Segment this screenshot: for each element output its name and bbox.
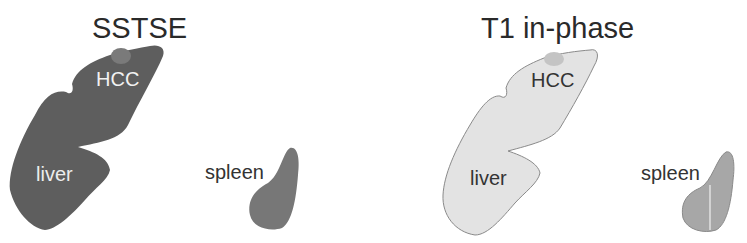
panel-t1-in-phase: T1 in-phase HCC liver spleen <box>420 0 747 243</box>
liver-label: liver <box>470 167 507 190</box>
hcc-lesion <box>111 48 131 64</box>
organ-diagram <box>0 0 373 243</box>
liver-label: liver <box>36 163 73 186</box>
panel-sstse: SSTSE HCC liver spleen <box>0 0 373 243</box>
hcc-label: HCC <box>531 69 574 92</box>
liver-shape <box>10 45 164 230</box>
spleen-label: spleen <box>641 162 700 185</box>
hcc-lesion <box>544 52 564 66</box>
organ-diagram <box>420 0 747 243</box>
hcc-label: HCC <box>96 68 139 91</box>
spleen-label: spleen <box>205 161 264 184</box>
